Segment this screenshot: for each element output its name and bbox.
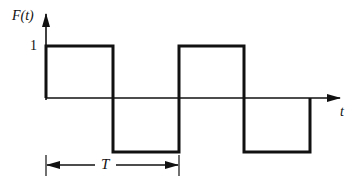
square-wave-diagram [0, 0, 357, 190]
square-wave-signal [46, 46, 310, 152]
period-label: T [101, 156, 109, 173]
y-tick-label-1: 1 [30, 38, 37, 54]
y-axis-label: F(t) [12, 8, 34, 24]
x-axis-label: t [340, 104, 344, 120]
